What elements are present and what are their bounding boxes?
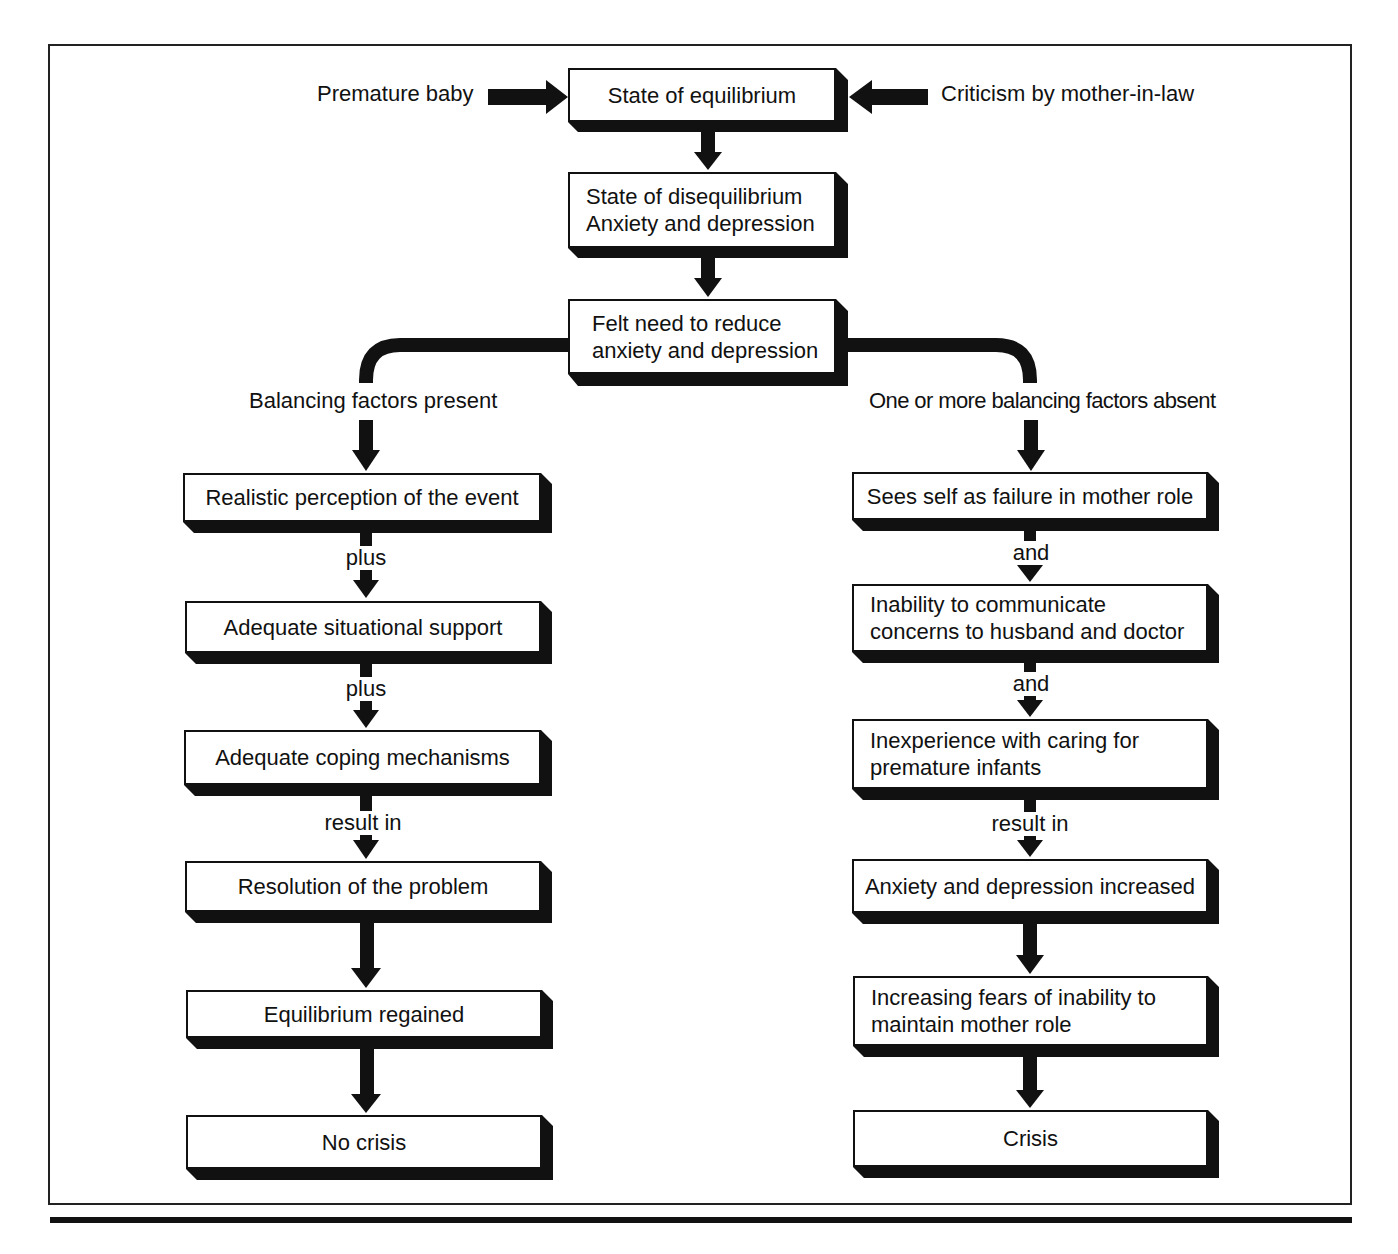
node-text: anxiety and depression xyxy=(592,337,818,364)
node-text: Adequate situational support xyxy=(224,614,503,641)
arrow-down-icon xyxy=(1016,1057,1044,1108)
node-anxiety-depression-increased: Anxiety and depression increased xyxy=(852,859,1208,913)
arrow-down-icon xyxy=(1016,924,1044,974)
node-crisis: Crisis xyxy=(853,1110,1208,1167)
arrow-left-icon xyxy=(849,80,928,114)
node-felt-need-to-reduce: Felt need to reduce anxiety and depressi… xyxy=(568,299,836,374)
node-inexperience-caring: Inexperience with caring for premature i… xyxy=(852,719,1208,789)
node-text: Anxiety and depression increased xyxy=(865,873,1195,900)
input-criticism-mother-in-law: Criticism by mother-in-law xyxy=(941,81,1194,107)
node-text: concerns to husband and doctor xyxy=(870,618,1184,645)
arrow-down-icon xyxy=(351,923,381,988)
node-text: Realistic perception of the event xyxy=(205,484,518,511)
connector-label-plus: plus xyxy=(344,546,388,570)
condition-balancing-factors-present: Balancing factors present xyxy=(249,388,497,414)
node-text: No crisis xyxy=(322,1129,406,1156)
node-resolution-of-problem: Resolution of the problem xyxy=(185,861,541,912)
node-no-crisis: No crisis xyxy=(186,1115,542,1169)
node-text: State of disequilibrium xyxy=(586,183,802,210)
input-premature-baby: Premature baby xyxy=(317,81,474,107)
node-adequate-coping-mechanisms: Adequate coping mechanisms xyxy=(184,730,541,785)
connector-label-result-in: result in xyxy=(989,812,1070,836)
node-state-of-equilibrium: State of equilibrium xyxy=(568,68,836,122)
condition-balancing-factors-absent: One or more balancing factors absent xyxy=(869,388,1216,414)
node-inability-to-communicate: Inability to communicate concerns to hus… xyxy=(852,584,1208,652)
arrow-down-icon xyxy=(694,258,722,297)
node-realistic-perception: Realistic perception of the event xyxy=(183,473,541,522)
node-adequate-situational-support: Adequate situational support xyxy=(185,601,541,653)
node-text: Felt need to reduce xyxy=(592,310,782,337)
node-text: Equilibrium regained xyxy=(264,1001,465,1028)
node-increasing-fears: Increasing fears of inability to maintai… xyxy=(853,976,1208,1046)
node-text: Resolution of the problem xyxy=(238,873,489,900)
node-sees-self-as-failure: Sees self as failure in mother role xyxy=(852,472,1208,520)
branch-left-connector xyxy=(366,345,568,383)
node-text: Sees self as failure in mother role xyxy=(867,483,1194,510)
node-text: premature infants xyxy=(870,754,1041,781)
node-text: Crisis xyxy=(1003,1125,1058,1152)
connector-label-and: and xyxy=(1011,541,1052,565)
node-text: State of equilibrium xyxy=(608,82,796,109)
connector-label-and: and xyxy=(1011,672,1052,696)
node-text: Adequate coping mechanisms xyxy=(215,744,510,771)
connector-label-plus: plus xyxy=(344,677,388,701)
node-text: Inexperience with caring for xyxy=(870,727,1139,754)
node-text: Anxiety and depression xyxy=(586,210,815,237)
node-text: Inability to communicate xyxy=(870,591,1106,618)
connector-label-result-in: result in xyxy=(322,811,403,835)
arrow-down-icon xyxy=(352,420,380,471)
arrow-down-icon xyxy=(1017,420,1045,471)
node-text: Increasing fears of inability to xyxy=(871,984,1156,1011)
arrow-down-icon xyxy=(694,132,722,170)
arrow-down-icon xyxy=(351,1049,381,1113)
node-equilibrium-regained: Equilibrium regained xyxy=(186,990,542,1038)
node-text: maintain mother role xyxy=(871,1011,1072,1038)
arrow-right-icon xyxy=(488,80,568,114)
node-state-of-disequilibrium: State of disequilibrium Anxiety and depr… xyxy=(568,172,836,248)
branch-right-connector xyxy=(848,345,1030,383)
